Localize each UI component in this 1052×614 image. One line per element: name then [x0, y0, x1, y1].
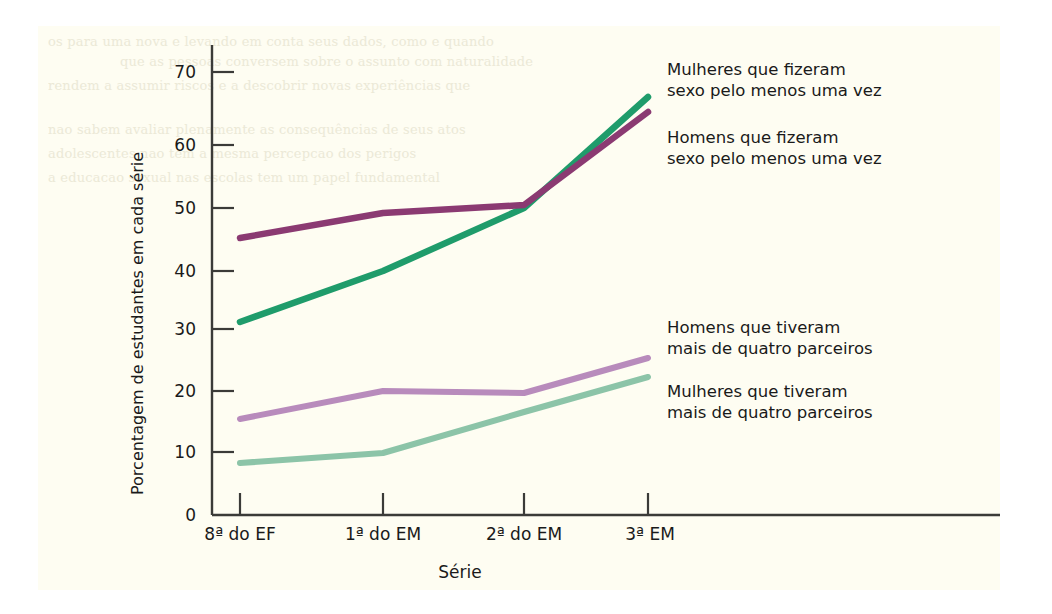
annot-homens-parceiros: Homens que tiveram mais de quatro parcei…: [667, 318, 873, 359]
annot-mulheres-sexo-line-1: Mulheres que fizeram: [667, 60, 882, 81]
series-line-homens-sexo: [240, 112, 648, 238]
x-axis-ticks: [240, 493, 648, 515]
x-tick-label-1-em: 1ª do EM: [313, 524, 453, 544]
y-tick-label-10: 10: [150, 442, 196, 462]
y-tick-label-0: 0: [150, 505, 196, 525]
x-tick-label-3-em: 3ª EM: [580, 524, 720, 544]
y-tick-label-20: 20: [150, 381, 196, 401]
y-tick-label-30: 30: [150, 319, 196, 339]
annot-homens-parceiros-line-1: Homens que tiveram: [667, 318, 873, 339]
annot-homens-sexo: Homens que fizeram sexo pelo menos uma v…: [667, 128, 882, 169]
y-tick-label-60: 60: [150, 135, 196, 155]
annot-homens-parceiros-line-2: mais de quatro parceiros: [667, 339, 873, 360]
annot-homens-sexo-line-1: Homens que fizeram: [667, 128, 882, 149]
figure-container: os para uma nova e levando em conta seus…: [0, 0, 1052, 614]
annot-homens-sexo-line-2: sexo pelo menos uma vez: [667, 149, 882, 170]
annot-mulheres-sexo: Mulheres que fizeram sexo pelo menos uma…: [667, 60, 882, 101]
y-axis-title: Porcentagem de estudantes em cada série: [128, 152, 147, 495]
annot-mulheres-parceiros: Mulheres que tiveram mais de quatro parc…: [667, 382, 873, 423]
annot-mulheres-parceiros-line-2: mais de quatro parceiros: [667, 403, 873, 424]
annot-mulheres-sexo-line-2: sexo pelo menos uma vez: [667, 81, 882, 102]
annot-mulheres-parceiros-line-1: Mulheres que tiveram: [667, 382, 873, 403]
x-axis-title: Série: [360, 562, 560, 582]
y-tick-label-50: 50: [150, 198, 196, 218]
x-tick-label-2-em: 2ª do EM: [454, 524, 594, 544]
y-axis-ticks: [212, 72, 234, 452]
y-tick-label-70: 70: [150, 62, 196, 82]
series-line-homens-parceiros: [240, 358, 648, 419]
x-tick-label-8-ef: 8ª do EF: [170, 524, 310, 544]
y-tick-label-40: 40: [150, 261, 196, 281]
